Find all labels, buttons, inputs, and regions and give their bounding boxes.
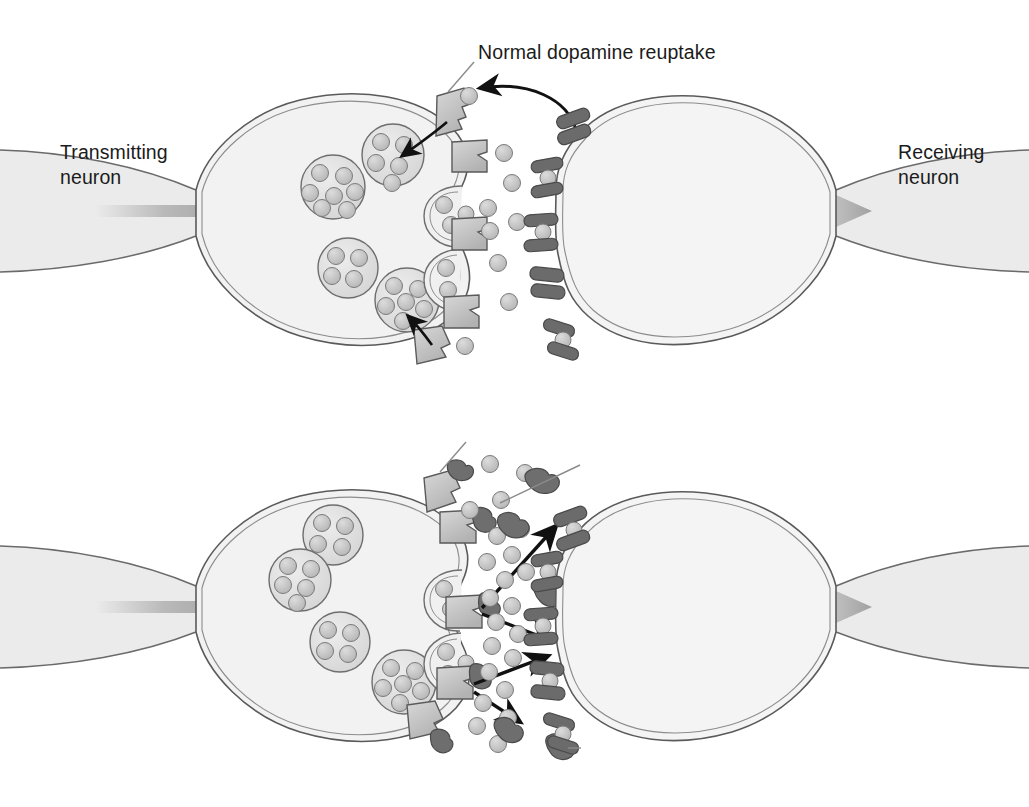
dopamine-molecule bbox=[481, 664, 498, 681]
dopamine-transporter bbox=[452, 140, 487, 172]
dopamine-transporter bbox=[444, 295, 479, 328]
cocaine-blocked-diagram bbox=[0, 400, 1029, 807]
label-receiving-neuron-top: Receivingneuron bbox=[898, 140, 985, 190]
dopamine-molecule bbox=[457, 338, 474, 355]
receptor bbox=[529, 266, 565, 299]
dopamine-molecule bbox=[504, 547, 521, 564]
receptor bbox=[542, 317, 580, 361]
label-line-1: Receiving bbox=[898, 141, 985, 163]
dopamine-molecule bbox=[461, 88, 478, 105]
dopamine-molecule bbox=[482, 590, 499, 607]
dopamine-molecule bbox=[518, 564, 535, 581]
vesicle bbox=[310, 612, 370, 672]
dopamine-bound bbox=[535, 618, 551, 634]
vesicle bbox=[269, 549, 331, 612]
panel-cocaine-blocked: Dopamine reuptake blocked by cocaine Dop… bbox=[0, 400, 1029, 807]
dopamine-bound bbox=[535, 224, 551, 240]
receptor bbox=[529, 660, 565, 700]
dopamine-molecule bbox=[504, 598, 521, 615]
dopamine-molecule bbox=[497, 572, 514, 589]
label-line-2: neuron bbox=[898, 166, 959, 188]
dopamine-molecule bbox=[484, 638, 501, 655]
receptor bbox=[524, 213, 559, 252]
dopamine-molecule bbox=[479, 554, 496, 571]
cocaine-molecule-bound bbox=[430, 729, 452, 753]
dopamine-molecule bbox=[497, 682, 514, 699]
dopamine-molecule bbox=[509, 214, 526, 231]
dopamine-molecule bbox=[490, 255, 507, 272]
dopamine-molecule bbox=[504, 175, 521, 192]
dopamine-molecule bbox=[469, 718, 486, 735]
label-normal-reuptake: Normal dopamine reuptake bbox=[478, 40, 716, 65]
cocaine-molecule bbox=[525, 468, 559, 493]
dopamine-molecule bbox=[480, 200, 497, 217]
dopamine-molecule bbox=[475, 695, 492, 712]
postsynaptic-neuron bbox=[556, 492, 837, 741]
dopamine-molecule bbox=[501, 294, 518, 311]
vesicle bbox=[318, 238, 378, 298]
label-line-1: Transmitting bbox=[60, 141, 168, 163]
dopamine-molecule bbox=[496, 145, 513, 162]
receptor bbox=[524, 607, 559, 646]
dopamine-molecule bbox=[505, 650, 522, 667]
dopamine-molecule bbox=[482, 456, 499, 473]
panel-normal-reuptake: Normal dopamine reuptake Transmittingneu… bbox=[0, 0, 1029, 400]
label-line-2: neuron bbox=[60, 166, 121, 188]
dopamine-molecule bbox=[482, 223, 499, 240]
dopamine-molecule bbox=[488, 614, 505, 631]
postsynaptic-neuron bbox=[556, 96, 837, 345]
dopamine-molecule bbox=[462, 502, 479, 519]
label-transmitting-neuron-top: Transmittingneuron bbox=[60, 140, 168, 190]
vesicle bbox=[301, 155, 365, 219]
